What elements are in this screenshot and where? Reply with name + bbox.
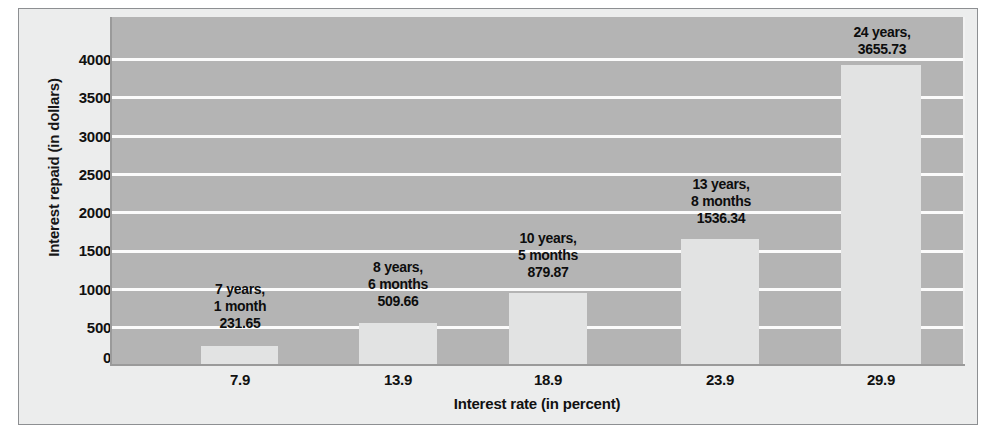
y-axis-line	[110, 17, 112, 366]
bar-label-18-9: 10 years, 5 months 879.87	[483, 230, 613, 281]
y-axis-tick-3500: 3500	[41, 89, 111, 106]
y-axis-tick-4000: 4000	[41, 51, 111, 68]
x-axis-tick-23-9: 23.9	[660, 371, 780, 388]
bar-label-29-9: 24 years, 3655.73	[817, 24, 947, 58]
bar-label-line3: 231.65	[175, 315, 305, 332]
gridline-2500	[111, 173, 963, 176]
gridline-4000	[111, 58, 963, 61]
bar-label-line1: 8 years,	[333, 259, 463, 276]
y-axis-tick-500: 500	[41, 319, 111, 336]
bar-label-line1: 24 years,	[817, 24, 947, 41]
y-axis-tick-1000: 1000	[41, 281, 111, 298]
bar-label-line3: 1536.34	[656, 210, 786, 227]
bar-13-9	[359, 323, 437, 365]
bar-label-line2: 1 month	[175, 298, 305, 315]
bar-label-line3: 509.66	[333, 293, 463, 310]
gridline-3000	[111, 135, 963, 138]
bar-label-13-9: 8 years, 6 months 509.66	[333, 259, 463, 310]
bar-label-line1: 7 years,	[175, 281, 305, 298]
bar-18-9	[509, 293, 587, 365]
chart-figure: Interest repaid (in dollars) 4000 3500 3…	[18, 8, 978, 425]
bar-7-9	[201, 346, 278, 365]
bar-label-line2: 3655.73	[817, 41, 947, 58]
bar-label-line2: 8 months	[656, 193, 786, 210]
x-axis-tick-18-9: 18.9	[488, 371, 608, 388]
y-axis-tick-1500: 1500	[41, 242, 111, 259]
x-axis-tick-29-9: 29.9	[821, 371, 941, 388]
y-axis-tick-3000: 3000	[41, 128, 111, 145]
bar-label-23-9: 13 years, 8 months 1536.34	[656, 176, 786, 227]
gridline-3500	[111, 96, 963, 99]
x-axis-line	[111, 364, 965, 366]
x-axis-tick-7-9: 7.9	[180, 371, 300, 388]
bar-29-9	[841, 65, 921, 365]
y-axis-tick-2500: 2500	[41, 166, 111, 183]
bar-23-9	[681, 239, 759, 365]
x-axis-tick-13-9: 13.9	[338, 371, 458, 388]
bar-label-7-9: 7 years, 1 month 231.65	[175, 281, 305, 332]
bar-label-line1: 13 years,	[656, 176, 786, 193]
bar-label-line3: 879.87	[483, 264, 613, 281]
y-axis-tick-2000: 2000	[41, 204, 111, 221]
y-axis-tick-0: 0	[41, 349, 111, 366]
bar-label-line1: 10 years,	[483, 230, 613, 247]
bar-label-line2: 5 months	[483, 247, 613, 264]
bar-label-line2: 6 months	[333, 276, 463, 293]
gridline-2000	[111, 211, 963, 214]
x-axis-title: Interest rate (in percent)	[111, 395, 963, 412]
